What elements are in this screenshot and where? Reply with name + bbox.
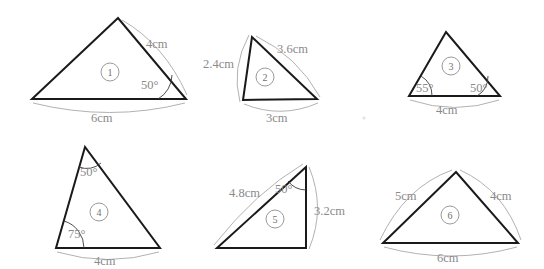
triangle-2-badge-label: 2	[263, 72, 268, 83]
triangle-1-badge-label: 1	[108, 67, 113, 78]
triangle-5-side-hyp-label: 4.8cm	[229, 186, 260, 200]
triangle-3-angle-right-label: 50°	[470, 81, 488, 95]
triangle-6-side-left-label: 5cm	[395, 189, 417, 203]
triangles-diagram: 1 4cm 6cm 50° 2 2.4cm 3.6cm 3cm	[0, 0, 544, 269]
triangle-6-side-right-label: 4cm	[490, 189, 512, 203]
triangle-5-side-right-label: 3.2cm	[314, 204, 345, 218]
triangle-6-badge-label: 6	[448, 210, 453, 221]
triangle-6-outline	[383, 172, 518, 243]
triangle-2-side-base-label: 3cm	[266, 111, 288, 125]
triangle-2-side-left-label: 2.4cm	[203, 57, 234, 71]
figure-root: 1 4cm 6cm 50° 2 2.4cm 3.6cm 3cm	[0, 0, 544, 269]
triangle-4-badge-label: 4	[97, 207, 102, 218]
triangle-5-hyp-brace	[214, 164, 303, 245]
triangle-1-group: 1 4cm 6cm 50°	[32, 18, 187, 125]
triangle-1-angle-right-label: 50°	[141, 78, 159, 92]
triangle-3-badge-label: 3	[449, 61, 454, 72]
triangle-3-angle-left-label: 55°	[416, 81, 434, 95]
triangle-1-side-right-label: 4cm	[146, 37, 168, 51]
triangle-6-right-brace	[460, 170, 521, 240]
background-speck	[362, 116, 365, 119]
triangle-4-group: 4 50° 75° 4cm	[56, 147, 160, 268]
triangle-5-badge-label: 5	[273, 214, 278, 225]
triangle-3-group: 3 55° 50° 4cm	[409, 32, 500, 117]
triangle-6-side-base-label: 6cm	[437, 251, 459, 265]
triangle-3-side-base-label: 4cm	[436, 103, 458, 117]
triangle-1-outline	[32, 18, 186, 99]
triangle-4-side-base-label: 4cm	[94, 254, 116, 268]
triangle-2-side-right-label: 3.6cm	[277, 42, 308, 56]
triangle-5-outline	[217, 167, 306, 248]
triangle-2-group: 2 2.4cm 3.6cm 3cm	[203, 35, 366, 125]
triangle-6-left-brace	[380, 170, 452, 240]
triangle-4-angle-apex-label: 50°	[80, 165, 98, 179]
triangle-5-group: 5 4.8cm 50° 3.2cm	[214, 164, 345, 249]
triangle-1-side-base-label: 6cm	[91, 111, 113, 125]
triangle-6-group: 6 5cm 4cm 6cm	[380, 170, 521, 265]
triangle-5-angle-apex-label: 50°	[275, 182, 293, 196]
triangle-4-angle-left-label: 75°	[68, 227, 86, 241]
